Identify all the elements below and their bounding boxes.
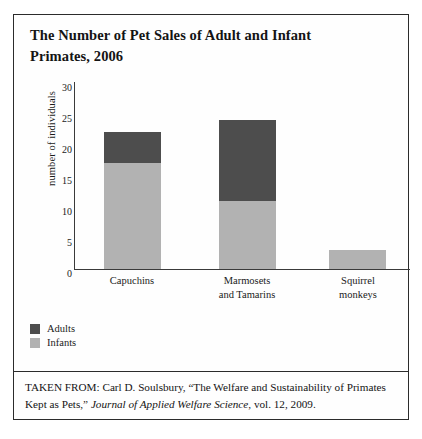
y-tick-15: 15 xyxy=(44,176,72,186)
y-tick-25: 25 xyxy=(44,114,72,124)
legend-item-infants: Infants xyxy=(30,337,76,348)
y-tick-5: 5 xyxy=(44,238,72,248)
bars-layer xyxy=(74,82,410,269)
chart-legend: Adults Infants xyxy=(30,323,76,351)
source-divider xyxy=(14,371,408,372)
x-axis-line xyxy=(74,269,410,270)
bar-segment-adults xyxy=(104,132,161,163)
category-label-line2: monkeys xyxy=(303,288,413,302)
y-tick-0: 0 xyxy=(44,269,72,279)
bar-stack xyxy=(329,250,386,269)
bar-segment-infants xyxy=(329,250,386,269)
bar-segment-infants xyxy=(104,163,161,269)
category-label-line1: Marmosets xyxy=(192,274,302,288)
category-label-marmosets-and-tamarins: Marmosets and Tamarins xyxy=(192,274,302,302)
bar-segment-infants xyxy=(219,201,276,269)
bar-stack xyxy=(219,120,276,269)
category-label-squirrel-monkeys: Squirrel monkeys xyxy=(303,274,413,302)
source-citation: TAKEN FROM: Carl D. Soulsbury, “The Welf… xyxy=(25,379,399,413)
legend-label-infants: Infants xyxy=(47,337,76,348)
legend-swatch-adults-icon xyxy=(30,324,40,334)
chart-plot-area: number of individuals 30 25 20 15 10 5 0 xyxy=(14,15,410,315)
bar-stack xyxy=(104,132,161,269)
y-tick-30: 30 xyxy=(44,83,72,93)
category-label-line1: Squirrel xyxy=(303,274,413,288)
source-citation-journal: Journal of Applied Welfare Science xyxy=(91,398,248,410)
y-tick-10: 10 xyxy=(44,207,72,217)
legend-swatch-infants-icon xyxy=(30,338,40,348)
legend-label-adults: Adults xyxy=(47,323,75,334)
source-citation-suffix: , vol. 12, 2009. xyxy=(248,398,315,410)
y-axis-tick-labels: 30 25 20 15 10 5 0 xyxy=(44,83,72,283)
category-label-line2: and Tamarins xyxy=(192,288,302,302)
bar-segment-adults xyxy=(219,120,276,201)
legend-item-adults: Adults xyxy=(30,323,76,334)
figure-container: The Number of Pet Sales of Adult and Inf… xyxy=(13,14,409,420)
category-label-line1: Capuchins xyxy=(77,274,187,288)
y-tick-20: 20 xyxy=(44,145,72,155)
x-axis-category-labels: Capuchins Marmosets and Tamarins Squirre… xyxy=(74,274,410,314)
category-label-capuchins: Capuchins xyxy=(77,274,187,288)
